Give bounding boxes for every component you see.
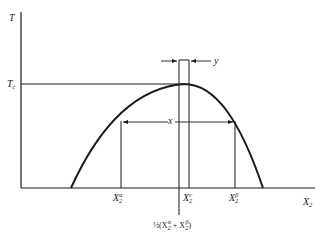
alpha-sub: 2	[119, 197, 122, 204]
coexistence-curve	[71, 84, 263, 188]
x2-beta-label: X2β	[229, 192, 238, 205]
midpoint-plus: + X	[171, 221, 185, 230]
midpoint-label: ½(X2α + X2β)	[153, 219, 191, 232]
x-width-label: x	[168, 116, 172, 126]
midpoint-suffix: )	[188, 221, 191, 230]
midpoint-prefix: ½(X	[153, 221, 167, 230]
critical-sup: c	[189, 192, 192, 198]
y-width-label: y	[214, 56, 218, 66]
tc-label: Tc	[7, 79, 15, 91]
x-axis-sub: 2	[309, 201, 312, 208]
phase-diagram-canvas	[0, 0, 325, 243]
y-axis-label: T	[9, 13, 15, 23]
x2-alpha-label: X2α	[113, 192, 123, 205]
beta-sub: 2	[235, 197, 238, 204]
x2-critical-label: X2c	[183, 192, 192, 205]
critical-sub: 2	[189, 197, 192, 204]
x-axis-label: X2	[303, 197, 312, 209]
beta-sup: β	[235, 192, 238, 198]
alpha-sup: α	[119, 192, 122, 198]
tc-sub: c	[13, 83, 16, 90]
